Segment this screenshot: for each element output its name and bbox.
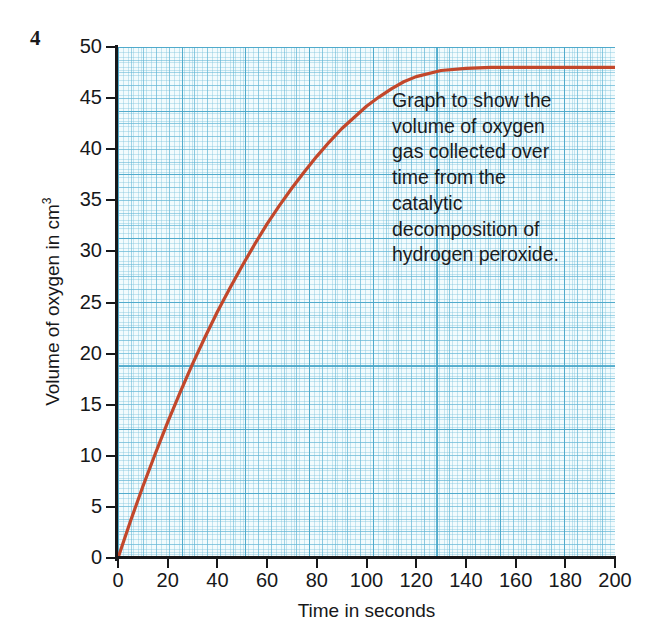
annotation-line-1: Graph to show the bbox=[392, 88, 607, 114]
chart-annotation: Graph to show thevolume of oxygengas col… bbox=[392, 88, 607, 268]
y-tick-label-10: 10 bbox=[62, 445, 102, 465]
y-tick-label-0: 0 bbox=[62, 547, 102, 567]
annotation-line-6: decomposition of bbox=[392, 217, 607, 243]
annotation-line-3: gas collected over bbox=[392, 139, 607, 165]
y-tick-label-40: 40 bbox=[62, 138, 102, 158]
y-tick-5 bbox=[106, 506, 116, 508]
y-tick-10 bbox=[106, 455, 116, 457]
y-tick-label-30: 30 bbox=[62, 240, 102, 260]
y-axis-title-superscript: 3 bbox=[40, 197, 54, 204]
x-axis-title: Time in seconds bbox=[118, 600, 615, 622]
x-tick-20 bbox=[167, 558, 169, 568]
annotation-line-2: volume of oxygen bbox=[392, 114, 607, 140]
y-tick-label-35: 35 bbox=[62, 189, 102, 209]
y-axis-title-text: Volume of oxygen in cm bbox=[42, 204, 63, 406]
x-tick-40 bbox=[216, 558, 218, 568]
annotation-line-5: catalytic bbox=[392, 191, 607, 217]
y-tick-label-50: 50 bbox=[62, 36, 102, 56]
annotation-line-4: time from the bbox=[392, 165, 607, 191]
y-tick-30 bbox=[106, 250, 116, 252]
y-tick-label-15: 15 bbox=[62, 394, 102, 414]
x-tick-80 bbox=[316, 558, 318, 568]
y-tick-20 bbox=[106, 353, 116, 355]
y-tick-label-45: 45 bbox=[62, 87, 102, 107]
y-tick-15 bbox=[106, 404, 116, 406]
y-tick-label-25: 25 bbox=[62, 292, 102, 312]
y-axis-title: Volume of oxygen in cm3 bbox=[40, 92, 63, 512]
x-tick-200 bbox=[614, 558, 616, 568]
x-tick-60 bbox=[266, 558, 268, 568]
annotation-line-7: hydrogen peroxide. bbox=[392, 242, 607, 268]
y-tick-45 bbox=[106, 97, 116, 99]
graph-figure: 4 05101520253035404550 02040608010012014… bbox=[0, 0, 651, 640]
y-tick-label-20: 20 bbox=[62, 343, 102, 363]
y-tick-50 bbox=[106, 46, 116, 48]
y-tick-0 bbox=[106, 557, 116, 559]
x-tick-180 bbox=[564, 558, 566, 568]
x-tick-0 bbox=[117, 558, 119, 568]
x-tick-label-200: 200 bbox=[585, 570, 645, 590]
y-tick-label-5: 5 bbox=[62, 496, 102, 516]
x-tick-120 bbox=[415, 558, 417, 568]
question-number: 4 bbox=[30, 28, 41, 49]
y-tick-35 bbox=[106, 199, 116, 201]
x-tick-160 bbox=[515, 558, 517, 568]
y-tick-25 bbox=[106, 302, 116, 304]
x-tick-100 bbox=[366, 558, 368, 568]
x-tick-140 bbox=[465, 558, 467, 568]
y-tick-40 bbox=[106, 148, 116, 150]
